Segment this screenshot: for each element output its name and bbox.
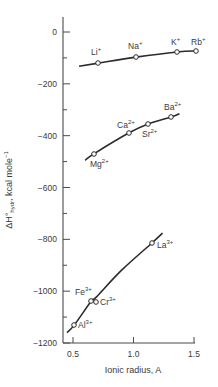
ion-labels: Li+ Na+ K+ Rb+ Mg2+ Ca2+ Sr2+ Ba2+ La3+ … bbox=[75, 36, 206, 330]
label-la: La3+ bbox=[157, 239, 174, 250]
marker-cr bbox=[94, 300, 99, 305]
x-axis-label: Ionic radius, A bbox=[105, 365, 162, 375]
marker-li bbox=[96, 61, 101, 66]
label-al: Al3+ bbox=[78, 319, 93, 330]
marker-la bbox=[150, 241, 155, 246]
y-tick-label: −600 bbox=[38, 183, 57, 193]
label-ca: Ca2+ bbox=[117, 119, 135, 130]
y-tick-label: −1000 bbox=[33, 286, 57, 296]
y-tick-label: 0 bbox=[52, 27, 57, 37]
x-ticks bbox=[73, 337, 194, 343]
y-ticks bbox=[63, 32, 70, 343]
marker-k bbox=[175, 50, 180, 55]
x-tick-labels: 0.51.01.5 bbox=[67, 349, 200, 359]
x-tick-label: 1.5 bbox=[188, 349, 200, 359]
marker-rb bbox=[194, 49, 199, 54]
y-tick-label: −200 bbox=[38, 79, 57, 89]
marker-na bbox=[134, 55, 139, 60]
label-cr: Cr3+ bbox=[100, 296, 116, 307]
label-na: Na+ bbox=[128, 40, 143, 51]
label-rb: Rb+ bbox=[191, 36, 206, 47]
label-fe: Fe3+ bbox=[75, 286, 92, 297]
y-tick-label: −1200 bbox=[33, 338, 57, 348]
label-ba: Ba2+ bbox=[164, 101, 182, 112]
x-tick-label: 1.0 bbox=[128, 349, 140, 359]
y-tick-label: −400 bbox=[38, 131, 57, 141]
x-tick-label: 0.5 bbox=[67, 349, 79, 359]
marker-al bbox=[72, 323, 77, 328]
label-mg: Mg2+ bbox=[90, 158, 109, 169]
label-k: K+ bbox=[171, 36, 181, 47]
marker-ca bbox=[127, 131, 132, 136]
marker-mg bbox=[92, 152, 97, 157]
series-curve-3 bbox=[67, 233, 163, 333]
y-tick-label: −800 bbox=[38, 234, 57, 244]
label-li: Li+ bbox=[91, 46, 102, 57]
y-axis-label: ΔH°hydr, kcal mole−1 bbox=[3, 151, 15, 229]
marker-sr bbox=[146, 122, 151, 127]
y-tick-labels: 0−200−400−600−800−1000−1200 bbox=[33, 27, 57, 348]
label-sr: Sr2+ bbox=[142, 128, 158, 139]
hydration-enthalpy-chart: 0−200−400−600−800−1000−1200 0.51.01.5 Io… bbox=[0, 0, 218, 387]
marker-fe bbox=[89, 299, 94, 304]
marker-ba bbox=[169, 115, 174, 120]
